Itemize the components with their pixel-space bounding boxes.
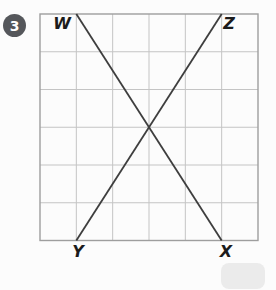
vertex-label-x: X <box>219 242 233 261</box>
worksheet-exercise: 3 W Z Y X <box>0 0 276 290</box>
vertex-label-y: Y <box>72 242 85 261</box>
geometry-figure: W Z Y X <box>0 0 276 290</box>
vertex-label-w: W <box>53 14 72 33</box>
vertex-label-z: Z <box>222 14 235 33</box>
bottom-right-button[interactable] <box>221 263 265 289</box>
